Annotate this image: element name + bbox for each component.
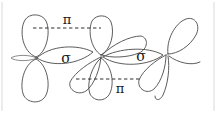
orbital-overlap-illustration: π σ σ π [0,0,216,113]
atom-right-p-orbital [155,18,200,99]
orbital-diagram-figure: π σ σ π [0,0,216,113]
pi-label-bottom: π [116,81,125,96]
pi-connectors [33,28,141,79]
sigma-label-right: σ [136,48,146,64]
sigma-label-left: σ [61,50,71,66]
atom-left-sp-lobes [11,47,93,64]
pi-label-top: π [63,12,72,27]
